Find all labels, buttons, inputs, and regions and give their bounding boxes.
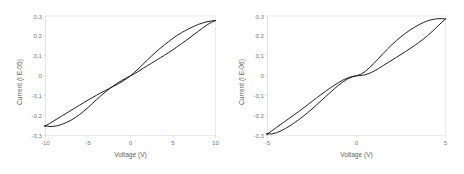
right-y-axis-title: Current (I E-06) bbox=[238, 59, 246, 105]
left-x-tick-label: -5 bbox=[85, 139, 91, 146]
left-curve-forward bbox=[46, 21, 216, 126]
figure-container: Current (I E-05) 0.3 0.2 0.1 0 -0.1 -0.2… bbox=[0, 0, 464, 174]
left-y-tick-label: 0.2 bbox=[33, 32, 42, 39]
left-y-tick-label: 0.1 bbox=[33, 52, 42, 59]
left-y-tick-label: -0.3 bbox=[31, 132, 42, 139]
right-curve-reverse bbox=[268, 19, 446, 134]
left-y-tick-label: 0 bbox=[39, 72, 43, 79]
left-y-axis-title: Current (I E-05) bbox=[16, 59, 24, 105]
right-y-tick-label: -0.3 bbox=[253, 132, 264, 139]
left-panel: Current (I E-05) 0.3 0.2 0.1 0 -0.1 -0.2… bbox=[0, 0, 232, 174]
left-x-tick-label: 0 bbox=[129, 139, 133, 146]
right-y-tick-label: -0.2 bbox=[253, 112, 264, 119]
left-x-tick-label: -10 bbox=[41, 139, 51, 146]
left-y-tick-label: 0.3 bbox=[33, 13, 42, 20]
left-x-tick-label: 10 bbox=[212, 139, 219, 146]
left-y-tick-label: -0.1 bbox=[31, 92, 42, 99]
left-plot-svg: Current (I E-05) 0.3 0.2 0.1 0 -0.1 -0.2… bbox=[0, 0, 232, 174]
right-plot-svg: Current (I E-06) 0.3 0.2 0.1 0 -0.1 -0.2… bbox=[232, 0, 464, 174]
right-x-tick-label: 5 bbox=[444, 139, 448, 146]
right-y-tick-label: 0.3 bbox=[255, 13, 264, 20]
right-y-tick-label: -0.1 bbox=[253, 92, 264, 99]
right-x-axis-title: Voltage (V) bbox=[340, 151, 373, 159]
left-x-axis-title: Voltage (V) bbox=[114, 151, 147, 159]
left-x-tick-label: 5 bbox=[171, 139, 175, 146]
right-x-tick-label: -5 bbox=[265, 139, 271, 146]
right-y-tick-label: 0.2 bbox=[255, 32, 264, 39]
right-panel: Current (I E-06) 0.3 0.2 0.1 0 -0.1 -0.2… bbox=[232, 0, 464, 174]
right-y-tick-label: 0 bbox=[261, 72, 265, 79]
right-y-tick-label: 0.1 bbox=[255, 52, 264, 59]
right-curve-forward bbox=[268, 19, 446, 134]
left-y-tick-label: -0.2 bbox=[31, 112, 42, 119]
right-x-tick-label: 0 bbox=[355, 139, 359, 146]
